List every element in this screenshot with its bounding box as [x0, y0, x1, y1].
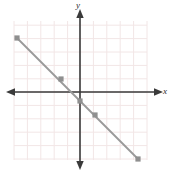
- y-axis-arrow-down: [76, 161, 83, 170]
- plotted-point: [77, 98, 82, 103]
- y-axis-arrow-up: [76, 9, 83, 18]
- plotted-point: [58, 76, 63, 81]
- x-axis-label: x: [163, 87, 167, 96]
- x-axis-arrow-left: [6, 88, 15, 95]
- plotted-point: [135, 156, 140, 161]
- y-axis-label: y: [76, 1, 80, 10]
- plotted-point: [14, 35, 19, 40]
- coordinate-plane-figure: y x: [0, 0, 176, 173]
- plotted-point: [92, 112, 97, 117]
- x-axis-arrow-right: [154, 88, 163, 95]
- graph-canvas: [0, 0, 176, 173]
